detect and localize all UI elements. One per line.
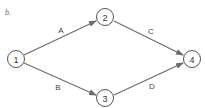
edge-label-d: D [149,82,155,91]
edge-label-c: C [148,27,154,36]
node-4: 4 [184,51,201,68]
node-label-1: 1 [13,55,18,65]
node-2: 2 [97,9,114,26]
node-1: 1 [8,51,25,68]
edge-label-b: B [55,83,60,92]
node-label-4: 4 [189,55,194,65]
node-3: 3 [97,90,114,107]
node-label-2: 2 [102,13,107,23]
node-label-3: 3 [102,94,107,104]
edge-label-a: A [58,26,64,35]
network-diagram: b. A B C D 1 2 3 4 [0,0,205,108]
diagram-caption: b. [5,8,11,17]
